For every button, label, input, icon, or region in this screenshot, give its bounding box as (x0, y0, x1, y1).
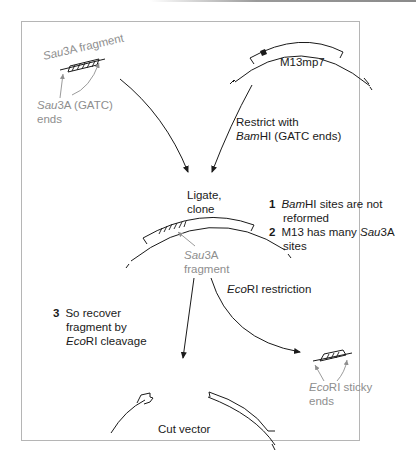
note-2-line2: sites (283, 240, 307, 252)
ligate-label: Ligate, (187, 189, 222, 201)
sticky-pointer-left (315, 365, 324, 381)
sticky-ends-label: EcoRI sticky (309, 381, 373, 393)
ecori-fragment-icon (313, 350, 352, 361)
restrict-step-label: Restrict with (236, 116, 299, 128)
note-2: 2M13 has many Sau3A (269, 226, 395, 238)
note-3: 3So recover (53, 307, 121, 319)
cloning-diagram: Sau3A fragment Sau3A (GATC) ends M13mp7 … (0, 0, 416, 469)
note-1-line2: reformed (283, 212, 329, 224)
arrow-to-cut-vector (183, 278, 194, 358)
arrow-fragment-to-ligate (120, 79, 188, 172)
cut-vector-label: Cut vector (158, 423, 211, 435)
note-1: 1BamHI sites are not (269, 198, 383, 210)
cut-vector-icon (111, 392, 275, 450)
sau3a-fragment-label: Sau3A fragment (42, 32, 126, 62)
sticky-pointer-right (337, 360, 347, 381)
ecori-restriction-label: EcoRI restriction (227, 283, 311, 295)
clone-label: clone (187, 203, 215, 215)
recombinant-fragment-label-line2: fragment (184, 263, 230, 275)
ends-pointer-left (60, 74, 63, 98)
restrict-step-label-line2: BamHI (GATC ends) (236, 130, 341, 142)
note-3-line3: EcoRI cleavage (66, 335, 147, 347)
note-3-line2: fragment by (66, 321, 127, 333)
sau3a-ends-label: Sau3A (GATC) (37, 99, 113, 111)
m13mp7-label: M13mp7 (280, 56, 325, 68)
arrow-vector-to-ligate (212, 85, 252, 172)
sticky-ends-label-line2: ends (309, 395, 334, 407)
recombinant-fragment-label: Sau3A (184, 249, 219, 261)
sau3a-ends-label-line2: ends (37, 113, 62, 125)
fragment-pointer (178, 232, 195, 246)
